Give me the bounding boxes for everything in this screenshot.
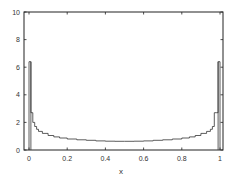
histogram-chart: 0246810 00.20.40.60.81 x [0,0,236,177]
y-tick-label: 4 [16,91,20,98]
y-tick-label: 10 [12,9,20,16]
y-tick-label: 6 [16,64,20,71]
plot-frame [24,12,223,150]
x-tick-label: 1 [218,155,222,162]
y-tick-label: 0 [16,147,20,154]
x-axis-ticks: 00.20.40.60.81 [27,12,222,162]
y-tick-label: 2 [16,119,20,126]
x-tick-label: 0.6 [139,155,149,162]
x-tick-label: 0 [27,155,31,162]
x-axis-label: x [119,167,123,176]
x-tick-label: 0.2 [62,155,72,162]
x-tick-label: 0.4 [101,155,111,162]
x-tick-label: 0.8 [177,155,187,162]
histogram-step-line [29,62,220,150]
y-axis-ticks: 0246810 [12,9,223,154]
y-tick-label: 8 [16,36,20,43]
